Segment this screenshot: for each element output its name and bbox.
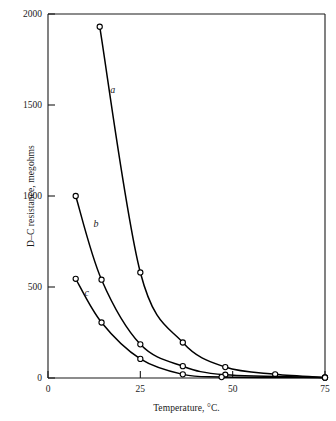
data-point-marker	[223, 364, 228, 369]
data-point-marker	[180, 364, 185, 369]
y-tick-label: 0	[37, 373, 42, 383]
x-tick-label: 25	[136, 384, 146, 394]
data-series-c	[73, 276, 328, 380]
curve-labels: abc	[85, 84, 116, 298]
data-point-marker	[138, 270, 143, 275]
series-line	[76, 196, 325, 377]
axis-frame	[48, 14, 325, 378]
x-tick-label: 75	[320, 384, 330, 394]
data-point-marker	[99, 320, 104, 325]
curve-label-a: a	[110, 84, 115, 95]
data-point-marker	[138, 342, 143, 347]
x-tick-label: 0	[46, 384, 51, 394]
series-line	[76, 279, 325, 378]
x-tick-label: 50	[228, 384, 238, 394]
data-point-marker	[99, 277, 104, 282]
data-point-marker	[180, 372, 185, 377]
data-point-marker	[97, 24, 102, 29]
data-series-a	[97, 24, 327, 380]
data-point-marker	[138, 356, 143, 361]
curve-label-c: c	[85, 287, 90, 298]
chart-figure: 0500100015002000 0255075 abc D–C resista…	[0, 0, 336, 421]
data-series-group	[73, 24, 328, 380]
data-point-marker	[180, 340, 185, 345]
data-point-marker	[322, 375, 327, 380]
data-point-marker	[73, 193, 78, 198]
curve-label-b: b	[94, 218, 99, 229]
y-axis-title: D–C resistance, megohms	[26, 96, 36, 296]
data-point-marker	[73, 276, 78, 281]
series-line	[100, 27, 325, 378]
data-series-b	[73, 193, 328, 380]
x-axis-title: Temperature, °C.	[48, 403, 325, 413]
data-point-marker	[219, 374, 224, 379]
chart-plot-area: 0500100015002000 0255075 abc	[0, 0, 336, 421]
y-tick-label: 2000	[23, 9, 42, 19]
x-axis: 0255075	[46, 371, 330, 394]
